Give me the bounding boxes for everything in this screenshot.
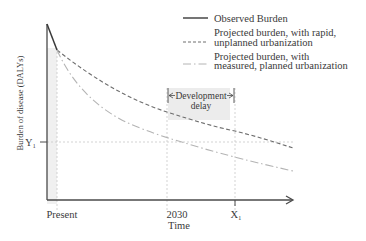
annotation-delay: delay [191,101,212,111]
present-shade [47,48,57,204]
observed-line [47,24,57,50]
chart: Development delay Observed Burden Projec… [0,0,366,241]
legend-label-rapid-2: unplanned urbanization [214,37,314,48]
annotation-development: Development [175,91,227,101]
y-tick-y1: Y₁ [25,137,36,148]
x-tick-present: Present [47,209,78,220]
legend-label-observed: Observed Burden [214,13,289,24]
x-tick-x1: X₁ [230,209,241,220]
legend-label-planned-2: measured, planned urbanization [214,60,349,71]
y-axis-title: Burden of disease (DALYs) [15,55,25,150]
x-tick-2030: 2030 [167,209,188,220]
x-axis-title: Time [168,220,190,231]
